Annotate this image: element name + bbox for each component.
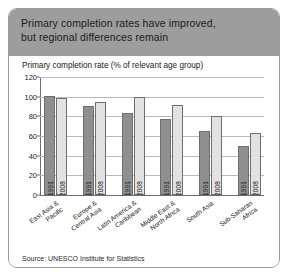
y-axis-tick-mark	[37, 155, 40, 156]
x-axis-category-label: Middle East &North Africa	[139, 199, 181, 235]
x-axis-category-label: East Asia &Pacific	[28, 199, 64, 231]
chart-body: Primary completion rate (% of relevant a…	[9, 56, 279, 268]
bar-group: 19912008	[122, 77, 145, 195]
y-axis-tick-mark	[37, 96, 40, 97]
bar-year-label: 2008	[58, 181, 65, 196]
figure-panel: Primary completion rates have improved, …	[8, 8, 280, 268]
bar-group: 19912008	[160, 77, 183, 195]
bar-group: 19912008	[199, 77, 222, 195]
bar-year-label: 1991	[162, 181, 169, 196]
bar-year-label: 1991	[240, 181, 247, 196]
bar[interactable]: 1991	[44, 96, 55, 195]
bar[interactable]: 2008	[211, 116, 222, 195]
x-axis-category-label: South Asia	[185, 199, 215, 224]
y-axis-tick-label: 40	[29, 151, 37, 160]
bar-year-label: 2008	[213, 181, 220, 196]
chart-axis-title: Primary completion rate (% of relevant a…	[22, 61, 203, 70]
bar-year-label: 2008	[252, 181, 259, 196]
bar-group: 19912008	[238, 77, 261, 195]
y-axis-tick-label: 120	[24, 73, 37, 82]
bar[interactable]: 1991	[238, 146, 249, 195]
bar-year-label: 2008	[97, 181, 104, 196]
x-axis-category-label: Sub-SaharanAfrica	[218, 199, 258, 234]
x-axis-category-labels: East Asia &PacificEurope &Central AsiaLa…	[41, 197, 265, 255]
bar-year-label: 1991	[46, 181, 53, 196]
y-axis-tick-mark	[37, 136, 40, 137]
bar[interactable]: 2008	[56, 98, 67, 195]
category-label-line-1: South Asia	[185, 199, 215, 224]
y-axis-tick-label: 20	[29, 171, 37, 180]
y-axis-tick-mark	[37, 116, 40, 117]
bar[interactable]: 2008	[134, 97, 145, 195]
bar[interactable]: 2008	[172, 105, 183, 195]
y-axis-tick-label: 100	[24, 92, 37, 101]
plot-area: 020406080100120 199120081991200819912008…	[40, 77, 264, 195]
bar[interactable]: 1991	[83, 106, 94, 195]
bar-year-label: 2008	[174, 181, 181, 196]
bar-group: 19912008	[83, 77, 106, 195]
y-axis-tick-label: 80	[29, 112, 37, 121]
figure-title-line-2: but regional differences remain	[21, 30, 267, 44]
bar-series-container: 1991200819912008199120081991200819912008…	[41, 77, 264, 195]
bar-group: 19912008	[44, 77, 67, 195]
bar[interactable]: 1991	[160, 119, 171, 195]
bar-year-label: 1991	[201, 181, 208, 196]
figure-title-line-1: Primary completion rates have improved,	[21, 16, 267, 30]
chart-source: Source: UNESCO Institute for Statistics	[22, 255, 145, 262]
bar[interactable]: 2008	[95, 102, 106, 195]
y-axis-tick-mark	[37, 175, 40, 176]
x-axis-category-label: Latin America &Caribbean	[96, 199, 142, 238]
bar-year-label: 1991	[85, 181, 92, 196]
bar-year-label: 1991	[124, 181, 131, 196]
bar[interactable]: 1991	[122, 113, 133, 195]
figure-header: Primary completion rates have improved, …	[9, 9, 279, 56]
bar[interactable]: 2008	[250, 133, 261, 195]
y-axis-tick-label: 60	[29, 132, 37, 141]
y-axis-tick-label: 0	[33, 191, 37, 200]
bar-year-label: 2008	[136, 181, 143, 196]
y-axis-tick-mark	[37, 77, 40, 78]
x-axis-line	[40, 195, 264, 196]
bar[interactable]: 1991	[199, 131, 210, 195]
